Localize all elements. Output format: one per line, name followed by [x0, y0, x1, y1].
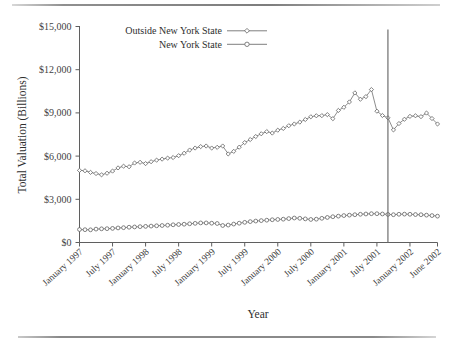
- data-point-marker-circle: [314, 217, 318, 221]
- data-point-marker-diamond: [199, 144, 203, 148]
- data-point-marker-circle: [144, 224, 148, 228]
- y-tick-label: $3,000: [44, 194, 72, 205]
- data-point-marker-circle: [188, 222, 192, 226]
- data-point-marker-circle: [298, 216, 302, 220]
- data-point-marker-circle: [397, 212, 401, 216]
- data-point-marker-circle: [342, 214, 346, 218]
- data-point-marker-diamond: [116, 166, 120, 170]
- valuation-line-chart: $0$3,000$6,000$9,000$12,000$15,000 Janua…: [0, 0, 451, 351]
- data-point-marker-circle: [358, 212, 362, 216]
- data-point-marker-circle: [408, 212, 412, 216]
- data-point-marker-diamond: [270, 131, 274, 135]
- data-point-marker-circle: [248, 220, 252, 224]
- data-point-marker-diamond: [314, 114, 318, 118]
- data-point-marker-circle: [403, 212, 407, 216]
- data-point-marker-diamond: [143, 161, 147, 165]
- data-point-marker-circle: [237, 221, 241, 225]
- chart-legend: Outside New York StateNew York State: [125, 25, 267, 50]
- data-point-marker-circle: [347, 213, 351, 217]
- data-point-marker-circle: [375, 212, 379, 216]
- data-point-marker-circle: [436, 214, 440, 218]
- y-tick-label: $6,000: [44, 151, 72, 162]
- data-point-marker-circle: [193, 221, 197, 225]
- data-point-marker-circle: [133, 225, 137, 229]
- data-point-marker-diamond: [298, 120, 302, 124]
- data-point-marker-diamond: [292, 122, 296, 126]
- y-axis-title: Total Valuation (Billions): [16, 76, 29, 193]
- data-point-marker-diamond: [99, 173, 103, 177]
- data-point-marker-diamond: [287, 124, 291, 128]
- data-point-marker-circle: [309, 218, 313, 222]
- data-point-marker-diamond: [303, 117, 307, 121]
- data-point-marker-diamond: [155, 158, 159, 162]
- data-point-marker-circle: [122, 226, 126, 230]
- data-point-marker-circle: [320, 216, 324, 220]
- data-point-marker-circle: [392, 213, 396, 217]
- data-point-marker-circle: [353, 213, 357, 217]
- legend-label-new-york-state: New York State: [159, 39, 223, 50]
- data-point-marker-circle: [336, 214, 340, 218]
- y-tick-label: $9,000: [44, 107, 72, 118]
- chart-axes: [80, 26, 438, 243]
- y-tick-label: $15,000: [39, 21, 72, 32]
- data-point-marker-circle: [204, 221, 208, 225]
- data-point-marker-diamond: [281, 126, 285, 130]
- data-point-marker-circle: [292, 216, 296, 220]
- data-point-marker-diamond: [419, 115, 423, 119]
- data-point-marker-diamond: [182, 151, 186, 155]
- data-point-marker-diamond: [177, 154, 181, 158]
- data-point-marker-circle: [215, 222, 219, 226]
- data-point-marker-circle: [116, 226, 120, 230]
- data-point-marker-circle: [419, 213, 423, 217]
- data-point-marker-diamond: [265, 130, 269, 134]
- data-point-marker-diamond: [309, 115, 313, 119]
- data-point-marker-diamond: [215, 145, 219, 149]
- data-point-marker-diamond: [105, 171, 109, 175]
- data-point-marker-diamond: [210, 146, 214, 150]
- data-point-marker-diamond: [166, 156, 170, 160]
- x-axis-ticks: January 1997July 1997January 1998July 19…: [40, 243, 443, 289]
- data-point-marker-circle: [210, 221, 214, 225]
- data-point-marker-diamond: [83, 169, 87, 173]
- data-point-marker-circle: [254, 219, 258, 223]
- data-point-marker-circle: [138, 225, 142, 229]
- data-point-marker-diamond: [320, 114, 324, 118]
- data-point-marker-circle: [243, 220, 247, 224]
- data-point-marker-circle: [364, 212, 368, 216]
- data-point-marker-diamond: [94, 171, 98, 175]
- data-point-marker-circle: [89, 228, 93, 232]
- data-point-marker-diamond: [149, 160, 153, 164]
- data-point-marker-diamond: [408, 114, 412, 118]
- data-point-marker-circle: [331, 215, 335, 219]
- legend-label-outside-ny: Outside New York State: [125, 25, 222, 36]
- data-point-marker-diamond: [88, 170, 92, 174]
- data-point-marker-circle: [381, 212, 385, 216]
- data-point-marker-circle: [111, 226, 115, 230]
- data-point-marker-diamond: [276, 128, 280, 132]
- data-point-marker-circle: [94, 227, 98, 231]
- data-point-marker-circle: [276, 218, 280, 222]
- data-point-marker-circle: [287, 217, 291, 221]
- x-axis-title: Year: [247, 308, 268, 320]
- data-point-marker-diamond: [188, 148, 192, 152]
- y-tick-label: $12,000: [39, 64, 72, 75]
- data-point-marker-circle: [83, 228, 87, 232]
- chart-plot-area: [77, 87, 439, 231]
- y-axis-ticks: $0$3,000$6,000$9,000$12,000$15,000: [39, 21, 80, 248]
- data-point-marker-circle: [160, 224, 164, 228]
- data-point-marker-diamond: [204, 144, 208, 148]
- data-point-marker-circle: [370, 212, 374, 216]
- data-point-marker-circle: [430, 214, 434, 218]
- data-point-marker-circle: [265, 218, 269, 222]
- data-point-marker-diamond: [248, 137, 252, 141]
- data-point-marker-circle: [281, 217, 285, 221]
- y-tick-label: $0: [62, 237, 72, 248]
- data-point-marker-diamond: [160, 157, 164, 161]
- data-point-marker-diamond: [259, 132, 263, 136]
- data-point-marker-circle: [259, 219, 263, 223]
- data-point-marker-diamond: [413, 114, 417, 118]
- data-point-marker-circle: [425, 213, 429, 217]
- data-point-marker-circle: [177, 223, 181, 227]
- data-point-marker-circle: [182, 222, 186, 226]
- data-point-marker-circle: [221, 224, 225, 228]
